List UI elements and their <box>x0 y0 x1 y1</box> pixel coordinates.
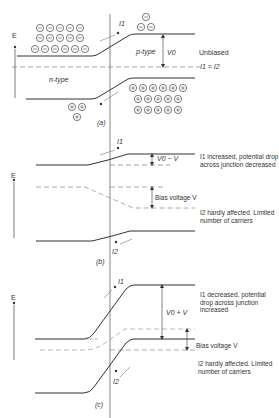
p-type-label: p-type <box>136 48 155 56</box>
current-i2-label-c: I2 <box>113 378 119 386</box>
holes-n-side <box>68 103 85 120</box>
barrier-v0-plus-v-label: V0 + V <box>166 309 187 317</box>
note-i2-unaffected-b: I2 hardly affected. Limited number of ca… <box>200 209 279 224</box>
n-type-label: n-type <box>49 76 68 84</box>
current-relation-label: I1 = I2 <box>200 63 220 71</box>
unbiased-label: Unbiased <box>199 49 229 57</box>
panel-a <box>12 13 200 120</box>
current-i2-label-b: I2 <box>112 248 118 256</box>
barrier-v0-label: V0 <box>167 49 176 57</box>
panel-c-caption: (c) <box>95 401 103 409</box>
current-i1-label-c: I1 <box>118 278 124 286</box>
electrons-n-side <box>31 24 88 52</box>
barrier-v0-minus-v-label: V0 − V <box>157 155 178 163</box>
panel-c <box>13 284 195 393</box>
current-i1-label-b: I1 <box>117 138 123 146</box>
current-i1-label: I1 <box>119 20 125 28</box>
note-i1-increased: I1 increased, potential drop across junc… <box>200 153 279 168</box>
note-i2-unaffected-c: I2 hardly affected. Limited number of ca… <box>198 360 278 375</box>
note-i1-decreased: I1 decreased, potential drop across junc… <box>200 291 279 314</box>
energy-axis-label-c: E <box>11 294 16 302</box>
holes-p-side <box>129 84 186 113</box>
energy-axis-label: E <box>12 32 17 40</box>
bias-voltage-label-c: Bias voltage V <box>196 342 238 350</box>
panel-b-caption: (b) <box>96 258 105 266</box>
bias-voltage-label-b: Bias voltage V <box>155 194 197 202</box>
energy-axis-label-b: E <box>11 172 16 180</box>
electrons-p-side <box>137 13 154 30</box>
panel-a-caption: (a) <box>97 119 106 127</box>
